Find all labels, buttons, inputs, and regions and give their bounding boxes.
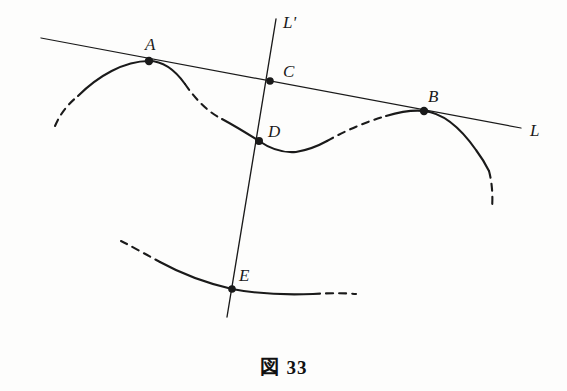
upper-curve-segment-dashed-left	[55, 96, 78, 126]
point-markers-group	[145, 57, 428, 293]
upper-curve-segment-dashed-ascent	[327, 116, 386, 141]
line-label-L: L	[530, 122, 539, 139]
caption-number: 33	[287, 357, 308, 378]
line-L	[41, 38, 521, 128]
figure-33-container: A C B D E L' L 図33	[0, 0, 567, 391]
point-label-c: C	[283, 63, 294, 80]
figure-caption: 図33	[0, 352, 567, 379]
point-label-e: E	[239, 267, 249, 284]
line-label-L-prime: L'	[283, 14, 296, 31]
upper-curve-segment-dashed-right	[489, 171, 492, 208]
point-marker-a	[145, 57, 153, 65]
lower-curve-segment-dashed-right	[313, 293, 356, 294]
upper-curve-segment-dashed-descent	[185, 84, 222, 119]
caption-symbol: 図	[260, 357, 280, 378]
point-marker-b	[420, 107, 428, 115]
point-marker-d	[255, 137, 263, 145]
lines-group	[41, 19, 521, 317]
point-label-a: A	[145, 36, 155, 53]
lower-curve-segment-solid	[160, 262, 313, 294]
geometry-figure-svg	[0, 0, 567, 391]
point-marker-c	[266, 77, 274, 85]
point-label-d: D	[268, 123, 280, 140]
line-L-prime	[227, 19, 276, 317]
point-label-b: B	[428, 88, 438, 105]
lower-curve-segment-dashed-left	[121, 241, 160, 262]
upper-curve-segment-solid-peak-a	[78, 61, 185, 96]
point-marker-e	[228, 285, 236, 293]
